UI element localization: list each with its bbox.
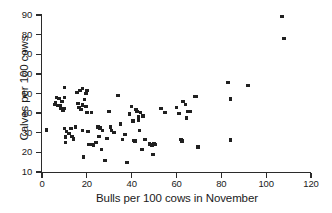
data-point <box>163 111 167 114</box>
y-tick-label-10: 10 <box>10 167 32 177</box>
data-point <box>63 107 67 110</box>
y-tick-label-80: 80 <box>10 30 32 40</box>
x-tick-label-20: 20 <box>74 179 100 189</box>
data-point <box>107 110 111 113</box>
y-tick-20 <box>36 152 41 153</box>
data-point <box>60 100 64 103</box>
data-point <box>137 118 141 121</box>
data-point <box>123 133 127 136</box>
data-point <box>128 112 132 115</box>
y-tick-30 <box>36 132 41 133</box>
data-point <box>45 128 49 131</box>
data-point <box>196 145 200 148</box>
plot-area <box>42 15 311 172</box>
data-point <box>159 107 163 110</box>
data-point <box>188 110 192 113</box>
data-point <box>64 135 68 138</box>
data-point <box>139 111 143 114</box>
data-point <box>82 155 86 158</box>
data-point <box>143 138 147 141</box>
x-tick-label-0: 0 <box>29 179 55 189</box>
data-point <box>84 105 88 108</box>
data-point <box>84 92 88 95</box>
data-point <box>81 129 85 132</box>
data-point <box>138 129 142 132</box>
data-point <box>184 103 188 106</box>
y-tick-label-60: 60 <box>10 69 32 79</box>
data-point <box>195 95 199 98</box>
data-point <box>103 159 107 162</box>
y-tick-label-30: 30 <box>10 128 32 138</box>
x-tick-100 <box>266 173 267 178</box>
data-point <box>185 116 189 119</box>
data-point <box>79 108 83 111</box>
y-tick-label-70: 70 <box>10 49 32 59</box>
data-point <box>180 139 184 142</box>
data-point <box>121 138 125 141</box>
x-tick-120 <box>310 173 311 178</box>
x-tick-label-60: 60 <box>164 179 190 189</box>
data-point <box>94 141 98 144</box>
data-point <box>86 130 90 133</box>
y-tick-label-90: 90 <box>10 10 32 20</box>
data-point <box>63 86 67 89</box>
data-point <box>229 138 233 141</box>
data-point <box>226 81 230 84</box>
data-point <box>131 119 135 122</box>
x-tick-0 <box>41 173 42 178</box>
x-tick-label-100: 100 <box>253 179 279 189</box>
x-tick-40 <box>131 173 132 178</box>
data-point <box>81 87 85 90</box>
data-point <box>83 98 87 101</box>
data-point <box>76 102 80 105</box>
y-tick-70 <box>36 54 41 55</box>
y-tick-label-20: 20 <box>10 147 32 157</box>
data-point <box>112 131 116 134</box>
data-point <box>282 37 286 40</box>
data-point <box>130 105 134 108</box>
data-point <box>69 127 73 130</box>
x-tick-20 <box>86 173 87 178</box>
data-point <box>74 125 78 128</box>
x-tick-60 <box>176 173 177 178</box>
y-tick-80 <box>36 34 41 35</box>
x-axis-label: Bulls per 100 cows in November <box>42 192 312 204</box>
x-tick-80 <box>221 173 222 178</box>
data-point <box>133 139 137 142</box>
data-point <box>229 98 233 101</box>
x-tick-label-80: 80 <box>208 179 234 189</box>
y-tick-10 <box>36 171 41 172</box>
x-tick-label-40: 40 <box>119 179 145 189</box>
data-point <box>97 135 101 138</box>
data-point <box>280 15 284 18</box>
data-point <box>85 111 89 114</box>
data-point <box>100 148 104 151</box>
data-point <box>141 114 145 117</box>
data-point <box>153 143 157 146</box>
data-point <box>105 137 109 140</box>
data-point <box>90 111 94 114</box>
data-point <box>64 141 68 144</box>
data-point <box>177 112 181 115</box>
data-point <box>72 137 76 140</box>
scatter-plot-figure: Calves per 100 cows Bulls per 100 cows i… <box>0 0 332 213</box>
y-tick-60 <box>36 73 41 74</box>
data-point <box>63 96 67 99</box>
data-point <box>140 148 144 151</box>
y-tick-label-40: 40 <box>10 108 32 118</box>
data-point <box>151 153 155 156</box>
y-tick-90 <box>36 14 41 15</box>
y-tick-50 <box>36 93 41 94</box>
data-point <box>125 161 129 164</box>
data-point <box>175 106 179 109</box>
y-tick-label-50: 50 <box>10 89 32 99</box>
y-tick-40 <box>36 112 41 113</box>
data-point <box>246 84 250 87</box>
x-tick-label-120: 120 <box>298 179 324 189</box>
data-point <box>119 122 123 125</box>
data-point <box>101 129 105 132</box>
data-point <box>116 94 120 97</box>
data-point <box>85 89 89 92</box>
